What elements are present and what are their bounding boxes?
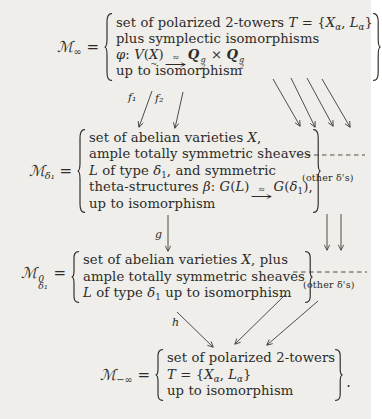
math-segment: } [243, 367, 252, 382]
math-segment: = [55, 162, 72, 180]
brace-open-icon [71, 251, 80, 303]
math-segment: L [83, 285, 92, 300]
math-line: up to isomorphism [167, 383, 335, 400]
arrow-other-2 [291, 78, 315, 127]
math-segment: = { [176, 367, 204, 382]
math-segment: of type [98, 163, 153, 178]
node-m-infinity-lines: set of polarized 2-towers T = {Xα, Lα} p… [113, 15, 373, 79]
math-segment: L [350, 15, 359, 30]
brace-close-icon [313, 129, 322, 213]
math-segment: set of abelian varieties [83, 252, 242, 267]
other-deltas-note-2: (other δ's) [303, 279, 355, 290]
brace-close-icon [335, 349, 344, 401]
brace-open-icon [104, 13, 113, 81]
arrow-other-4 [322, 79, 350, 127]
node-m-delta1: ℳδ₁ = set of abelian varieties X, ample … [10, 129, 322, 213]
math-segment: , [341, 15, 350, 30]
arrow-f2 [175, 92, 183, 128]
math-segment: set of abelian varieties [89, 130, 248, 145]
math-segment: ≈→ [250, 187, 274, 201]
node-m-delta1-label: ℳδ₁ = [10, 162, 77, 181]
node-m-infinity: ℳ∞ = set of polarized 2-towers T = {Xα, … [36, 13, 382, 81]
math-segment: ℳ [100, 366, 116, 384]
node-m-minus-infinity: ℳ−∞ = set of polarized 2-towers T = {Xα,… [84, 349, 351, 401]
math-segment: L [89, 163, 98, 178]
math-segment: ℳ [21, 264, 37, 282]
math-line: ample totally symmetric sheaves [83, 269, 305, 286]
math-segment: G [274, 179, 285, 194]
math-segment: } [365, 15, 374, 30]
math-segment: X [242, 252, 252, 267]
math-segment: X [326, 15, 336, 30]
math-segment: theta-structures [89, 179, 203, 194]
morphism-label-f2: f₂ [155, 92, 163, 105]
math-segment: Q [226, 47, 238, 62]
math-segment: δ [290, 179, 298, 194]
math-segment: , plus [251, 252, 288, 267]
math-segment: : [211, 179, 220, 194]
math-segment: ℳ [57, 38, 73, 56]
morphism-label-f1: f₁ [128, 91, 136, 104]
morphism-label-h: h [172, 316, 179, 329]
math-line: theta-structures β: G(L)≈→G(δ1), [89, 179, 313, 196]
math-segment: up to isomorphism [89, 196, 215, 211]
math-line: plus symplectic isomorphisms [116, 31, 373, 47]
math-segment: set of polarized 2-towers [116, 15, 289, 30]
math-segment: = [82, 38, 99, 56]
math-segment: Q [188, 47, 200, 62]
math-segment: X [248, 130, 258, 145]
math-segment: , [257, 130, 261, 145]
math-segment: ample totally symmetric sheaves [89, 146, 311, 161]
math-line: set of abelian varieties X, plus [83, 252, 305, 269]
arrow-other-3 [307, 78, 333, 126]
math-segment: V [134, 47, 144, 62]
math-segment: −∞ [116, 373, 133, 384]
math-segment: : [125, 47, 134, 62]
math-segment: ∞ [73, 45, 81, 56]
math-segment: δ₁ [45, 169, 55, 180]
node-m-delta1-lines: set of abelian varieties X, ample totall… [86, 130, 313, 213]
brace-close-icon [373, 13, 382, 81]
math-segment: plus symplectic isomorphisms [116, 31, 319, 46]
node-m0-delta1-lines: set of abelian varieties X, plus ample t… [80, 252, 305, 302]
math-segment: X [204, 367, 214, 382]
arrow-other-to-bottom-2 [267, 301, 318, 345]
math-line: ample totally symmetric sheaves [89, 146, 313, 163]
math-segment: X~ [149, 47, 159, 63]
math-segment: 0δ₁ [38, 275, 47, 290]
math-segment: T [167, 367, 176, 382]
math-line: set of polarized 2-towers [167, 350, 335, 367]
math-line: set of polarized 2-towers T = {Xα, Lα} [116, 15, 373, 31]
sentence-period: . [344, 360, 350, 390]
math-segment: , [220, 367, 229, 382]
math-segment: set of polarized 2-towers [167, 350, 335, 365]
node-m-infinity-label: ℳ∞ = [36, 38, 104, 57]
other-deltas-note-1: (other δ's) [302, 172, 354, 183]
math-line: L of type δ1, and symmetric [89, 163, 313, 180]
math-segment: , and symmetric [167, 163, 276, 178]
brace-open-icon [77, 129, 86, 213]
morphism-label-g: g [155, 228, 162, 241]
math-segment: up to isomorphism [167, 383, 293, 398]
brace-open-icon [155, 349, 164, 401]
node-m0-delta1: ℳ0δ₁ = set of abelian varieties X, plus … [10, 251, 314, 303]
math-segment: × [207, 47, 227, 62]
math-segment: = [49, 264, 66, 282]
arrow-h [177, 312, 213, 347]
math-segment: = { [297, 15, 325, 30]
math-segment: φ [116, 47, 125, 62]
math-segment: δ [153, 163, 161, 178]
math-line: φ: V(X~)≈→Qg2 × Qg2 [116, 47, 373, 63]
math-line: T = {Xα, Lα} [167, 367, 335, 384]
math-segment: δ [147, 285, 155, 300]
math-line: L of type δ1 up to isomorphism [83, 285, 305, 302]
math-segment: G [220, 179, 231, 194]
math-segment: β [203, 179, 211, 194]
node-m-minus-infinity-lines: set of polarized 2-towers T = {Xα, Lα} u… [164, 350, 335, 400]
arrow-f1 [139, 91, 152, 127]
math-segment: ample totally symmetric sheaves [83, 269, 305, 284]
math-segment: up to isomorphism [161, 285, 292, 300]
arrow-other-1 [273, 79, 300, 126]
math-line: up to isomorphism [89, 196, 313, 213]
